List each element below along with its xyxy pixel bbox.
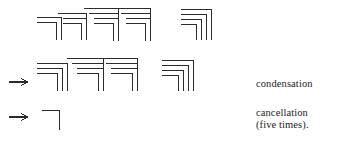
arrow-to-condensation-icon <box>9 79 28 86</box>
corner-shape <box>89 13 118 41</box>
corner-shape <box>111 73 132 91</box>
group-2d <box>162 60 193 91</box>
corner-shape <box>162 70 183 91</box>
group-1a <box>37 17 61 40</box>
corner-shape <box>94 18 118 41</box>
corner-shape <box>42 110 59 130</box>
corner-shape <box>63 23 81 40</box>
group-2b <box>67 58 103 91</box>
corner-shape <box>162 75 178 91</box>
label-cancellation: cancellation <box>256 107 308 119</box>
corner-shape <box>77 68 103 91</box>
corner-shape <box>111 68 137 91</box>
corner-shape <box>37 22 56 40</box>
corner-groups <box>37 8 211 130</box>
row-2-condensation <box>37 58 193 91</box>
group-2c <box>101 58 137 91</box>
group-1e <box>181 9 211 40</box>
label-condensation: condensation <box>256 78 313 90</box>
corner-shape <box>63 18 86 40</box>
corner-shape <box>37 68 62 91</box>
corner-shape <box>94 23 113 41</box>
corner-shape <box>181 14 206 40</box>
corner-shape <box>126 18 150 41</box>
arrow-to-cancellation-icon <box>9 114 28 121</box>
row-1-initial-diagram <box>37 8 211 41</box>
corner-shape <box>77 73 98 91</box>
corner-shape <box>37 73 57 91</box>
math-figure: condensation cancellation (five times). <box>0 0 348 150</box>
corner-shape <box>58 13 86 40</box>
corner-shape <box>126 23 145 41</box>
corner-shape <box>181 24 196 40</box>
corner-shape <box>121 13 150 41</box>
group-3a <box>42 110 59 130</box>
label-five-times: (five times). <box>256 119 309 131</box>
corner-shape <box>37 17 61 40</box>
group-2a <box>37 63 67 91</box>
row-3-cancellation <box>42 110 59 130</box>
group-1d <box>116 8 150 41</box>
corner-shape <box>181 19 201 40</box>
group-1c <box>84 8 118 41</box>
corner-shape <box>162 65 188 91</box>
group-1b <box>58 13 86 40</box>
